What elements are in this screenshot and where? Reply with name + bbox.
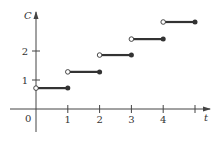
closed-endpoint (129, 53, 134, 58)
step-segments (34, 20, 198, 91)
y-tick-label: 1 (22, 75, 28, 86)
x-tick-label: 2 (96, 114, 102, 125)
axes (10, 12, 210, 132)
x-tick-label: 3 (128, 114, 134, 125)
x-tick-label: 4 (160, 114, 166, 125)
x-axis-label: t (204, 112, 209, 123)
closed-endpoint (65, 86, 70, 91)
closed-endpoint (161, 37, 166, 42)
step-function-chart: t C 0 123412 (0, 0, 217, 142)
open-endpoint (129, 37, 134, 42)
ticks: 123412 (22, 46, 195, 126)
x-tick-label: 1 (65, 114, 71, 125)
closed-endpoint (97, 69, 102, 74)
open-endpoint (66, 70, 71, 75)
closed-endpoint (193, 20, 198, 25)
axis-labels: t C 0 (24, 10, 209, 124)
y-axis-label: C (24, 10, 32, 21)
open-endpoint (97, 53, 102, 58)
origin-label: 0 (25, 113, 31, 124)
open-endpoint (161, 20, 166, 25)
open-endpoint (34, 86, 39, 91)
y-tick-label: 2 (22, 46, 28, 57)
